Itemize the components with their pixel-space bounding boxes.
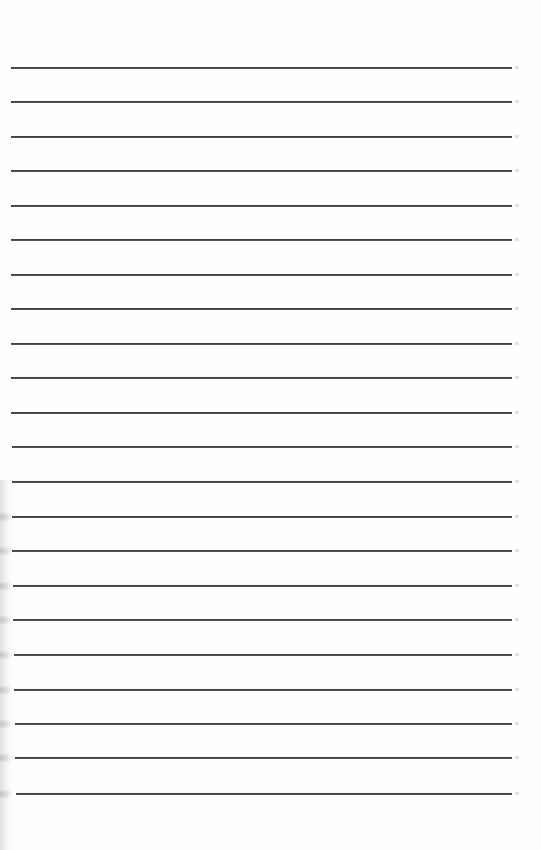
perforation-shadow [0, 650, 12, 660]
perforation-shadow [0, 789, 12, 799]
lined-paper-page [0, 0, 541, 850]
ruled-line [13, 619, 512, 621]
ruled-line [12, 516, 512, 518]
scan-mark [515, 169, 519, 172]
perforation-shadow [0, 685, 12, 695]
scan-mark [515, 549, 519, 552]
scan-mark [515, 792, 519, 795]
ruled-line [12, 550, 512, 552]
scan-mark [515, 688, 519, 691]
scan-mark [515, 342, 519, 345]
scan-mark [515, 238, 519, 241]
ruled-line [16, 793, 512, 795]
scan-mark [515, 756, 519, 759]
perforation-shadow [0, 615, 12, 625]
ruled-line [12, 481, 512, 483]
scan-mark [515, 411, 519, 414]
ruled-line [11, 205, 512, 207]
ruled-line [11, 308, 512, 310]
ruled-line [11, 343, 512, 345]
ruled-line [11, 274, 512, 276]
scan-mark [515, 480, 519, 483]
scan-mark [515, 66, 519, 69]
ruled-line [11, 239, 512, 241]
ruled-line [11, 101, 512, 103]
ruled-line [11, 412, 512, 414]
scan-mark [515, 307, 519, 310]
perforation-shadow [0, 546, 12, 556]
ruled-line [15, 723, 512, 725]
scan-mark [515, 653, 519, 656]
ruled-line [11, 136, 512, 138]
ruled-line [11, 67, 512, 69]
ruled-line [15, 757, 512, 759]
scan-mark [515, 376, 519, 379]
ruled-line [14, 654, 512, 656]
ruled-line [11, 170, 512, 172]
ruled-line [14, 689, 512, 691]
perforation-shadow [0, 581, 12, 591]
scan-mark [515, 618, 519, 621]
scan-mark [515, 584, 519, 587]
scan-mark [515, 515, 519, 518]
scan-mark [515, 445, 519, 448]
ruled-line [12, 446, 512, 448]
scan-mark [515, 100, 519, 103]
scan-mark [515, 273, 519, 276]
scan-mark [515, 135, 519, 138]
scan-mark [515, 722, 519, 725]
ruled-line [11, 377, 512, 379]
perforation-shadow [0, 753, 12, 763]
ruled-line [13, 585, 512, 587]
scan-mark [515, 204, 519, 207]
perforation-shadow [0, 719, 12, 729]
perforation-shadow [0, 512, 12, 522]
